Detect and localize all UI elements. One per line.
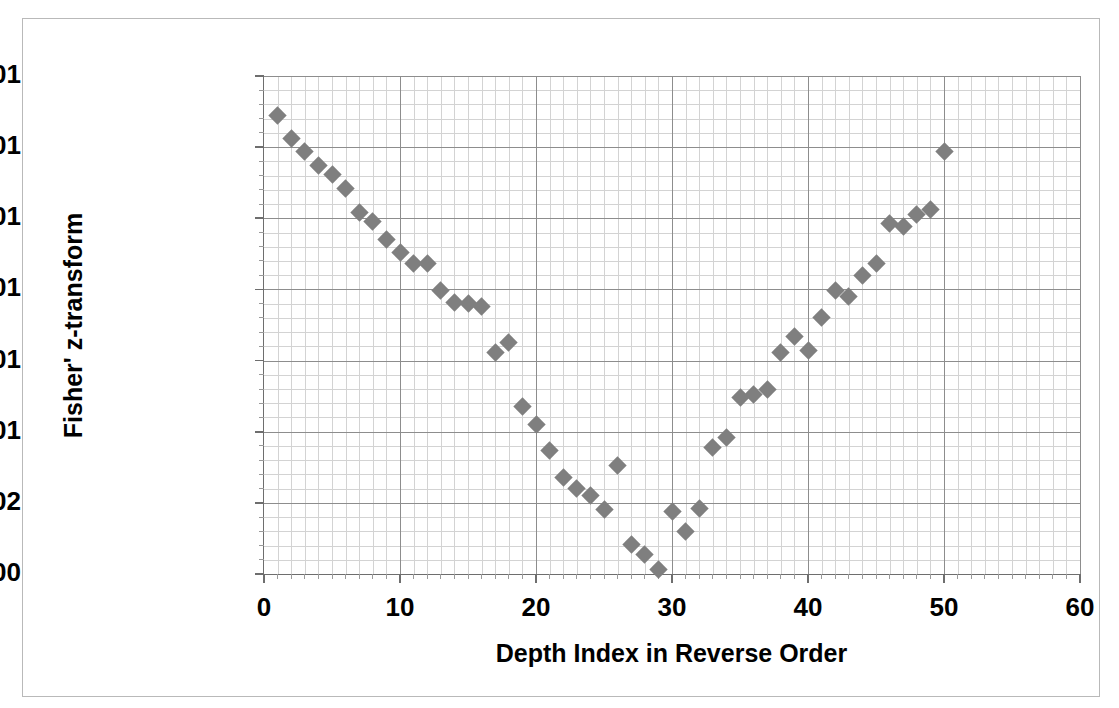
scatter-point — [894, 218, 912, 236]
scatter-point — [676, 522, 694, 540]
scatter-point — [812, 309, 830, 327]
x-axis-tick — [943, 574, 945, 583]
x-axis-tick-minor — [345, 574, 346, 579]
scatter-point — [540, 441, 558, 459]
scatter-point — [500, 333, 518, 351]
x-axis-tick-minor — [576, 574, 577, 579]
y-axis-tick — [255, 75, 264, 77]
x-axis-tick-minor — [862, 574, 863, 579]
x-axis-tick — [535, 574, 537, 583]
scatter-point — [799, 341, 817, 359]
scatter-point — [867, 255, 885, 273]
scatter-point — [649, 561, 667, 579]
scatter-point — [268, 107, 286, 125]
x-axis-tick-label: 60 — [1040, 592, 1119, 623]
gridline-vertical-major — [1080, 76, 1081, 574]
x-axis-tick-minor — [481, 574, 482, 579]
y-axis-tick-label: 2.50E-01 — [0, 201, 21, 232]
x-axis-tick-label: 30 — [632, 592, 712, 623]
y-axis-tick-label: 1.50E-01 — [0, 344, 21, 375]
x-axis-tick-minor — [304, 574, 305, 579]
x-axis-tick-minor — [753, 574, 754, 579]
x-axis-tick-minor — [876, 574, 877, 579]
x-axis-tick-minor — [835, 574, 836, 579]
x-axis-tick-minor — [386, 574, 387, 579]
x-axis-tick-minor — [848, 574, 849, 579]
x-axis-tick-label: 40 — [768, 592, 848, 623]
scatter-point — [608, 457, 626, 475]
x-axis-tick-label: 20 — [496, 592, 576, 623]
x-axis-tick-minor — [644, 574, 645, 579]
y-axis-title: Fisher' z-transform — [59, 76, 89, 575]
x-axis-title: Depth Index in Reverse Order — [263, 639, 1080, 668]
x-axis-tick — [1079, 574, 1081, 583]
scatter-point — [513, 397, 531, 415]
x-axis-tick-minor — [984, 574, 985, 579]
x-axis-tick-minor — [767, 574, 768, 579]
y-axis-tick-label: 0.00E+00 — [0, 557, 21, 588]
scatter-point — [785, 327, 803, 345]
scatter-points — [264, 76, 1080, 574]
x-axis-tick-minor — [780, 574, 781, 579]
scatter-point — [704, 438, 722, 456]
scatter-point — [554, 468, 572, 486]
scatter-point — [391, 243, 409, 261]
plot-area: 0.00E+005.00E-021.00E-011.50E-012.00E-01… — [263, 76, 1080, 575]
x-axis-tick-minor — [1012, 574, 1013, 579]
x-axis-tick-minor — [413, 574, 414, 579]
x-axis-tick-minor — [957, 574, 958, 579]
scatter-point — [432, 282, 450, 300]
x-axis-tick-minor — [427, 574, 428, 579]
x-axis-tick — [263, 574, 265, 583]
scatter-point — [690, 499, 708, 517]
x-axis-tick-minor — [604, 574, 605, 579]
x-axis-tick-minor — [372, 574, 373, 579]
x-axis-tick-minor — [563, 574, 564, 579]
scatter-point — [935, 142, 953, 160]
x-axis-tick-minor — [454, 574, 455, 579]
x-axis-tick-minor — [440, 574, 441, 579]
x-axis-tick-minor — [998, 574, 999, 579]
x-axis-tick-minor — [726, 574, 727, 579]
x-axis-tick-minor — [971, 574, 972, 579]
x-axis-tick-minor — [468, 574, 469, 579]
x-axis-tick-minor — [889, 574, 890, 579]
y-axis-tick-label: 5.00E-02 — [0, 486, 21, 517]
x-axis-tick — [671, 574, 673, 583]
scatter-point — [527, 415, 545, 433]
x-axis-tick-minor — [522, 574, 523, 579]
scatter-point — [663, 502, 681, 520]
x-axis-tick-label: 10 — [360, 592, 440, 623]
y-axis-tick — [255, 360, 264, 362]
scatter-point — [853, 266, 871, 284]
scatter-point — [296, 142, 314, 160]
y-axis-tick — [255, 146, 264, 148]
scatter-point — [636, 545, 654, 563]
x-axis-tick-minor — [318, 574, 319, 579]
x-axis-tick — [399, 574, 401, 583]
x-axis-tick-minor — [332, 574, 333, 579]
x-axis-tick-minor — [685, 574, 686, 579]
x-axis-tick-minor — [549, 574, 550, 579]
x-axis-tick-minor — [699, 574, 700, 579]
scatter-point — [323, 165, 341, 183]
y-axis-tick-label: 2.00E-01 — [0, 272, 21, 303]
x-axis-tick-minor — [631, 574, 632, 579]
x-axis-tick-minor — [590, 574, 591, 579]
x-axis-tick-minor — [495, 574, 496, 579]
x-axis-tick-minor — [916, 574, 917, 579]
y-axis-tick-label: 3.00E-01 — [0, 130, 21, 161]
scatter-point — [377, 230, 395, 248]
x-axis-tick-label: 0 — [224, 592, 304, 623]
y-axis-tick — [255, 431, 264, 433]
x-axis-tick-minor — [508, 574, 509, 579]
figure-border: Fisher' z-transform Depth Index in Rever… — [22, 18, 1100, 697]
scatter-point — [282, 129, 300, 147]
y-axis-tick — [255, 217, 264, 219]
x-axis-tick-minor — [794, 574, 795, 579]
y-axis-tick-label: 3.50E-01 — [0, 59, 21, 90]
figure-canvas: Fisher' z-transform Depth Index in Rever… — [0, 0, 1119, 708]
x-axis-tick-minor — [903, 574, 904, 579]
y-axis-tick — [255, 289, 264, 291]
scatter-point — [595, 501, 613, 519]
